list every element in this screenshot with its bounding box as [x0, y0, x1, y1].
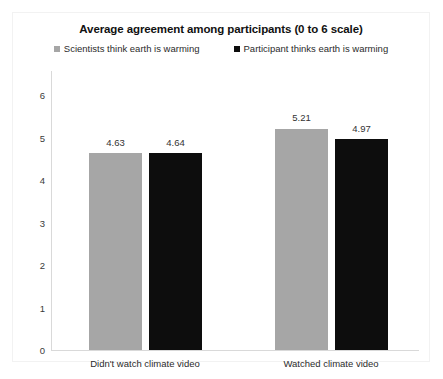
x-axis-line [51, 350, 419, 351]
chart-title: Average agreement among participants (0 … [13, 23, 429, 35]
y-tick-3: 3 [21, 217, 45, 228]
bar-value-group1-series0: 5.21 [272, 112, 332, 123]
bar-value-group0-series1: 4.64 [146, 137, 206, 148]
legend-swatch-black-icon [234, 46, 240, 52]
chart-container: Average agreement among participants (0 … [12, 12, 430, 362]
y-tick-2: 2 [21, 260, 45, 271]
legend-label-participant: Participant thinks earth is warming [244, 43, 389, 54]
y-tick-5: 5 [21, 132, 45, 143]
bar-value-group1-series1: 4.97 [332, 123, 392, 134]
legend-item-scientists[interactable]: Scientists think earth is warming [54, 43, 200, 54]
y-tick-4: 4 [21, 175, 45, 186]
y-axis-line [51, 71, 52, 351]
bar-group0-series1[interactable] [149, 153, 202, 350]
bar-group0-series0[interactable] [89, 153, 142, 350]
plot-area: 6 5 4 3 2 1 0 4.63 4.64 5.21 4.97 Didn't… [51, 71, 419, 351]
y-tick-6: 6 [21, 90, 45, 101]
bar-group1-series0[interactable] [275, 129, 328, 350]
bar-group1-series1[interactable] [335, 139, 388, 350]
y-tick-1: 1 [21, 302, 45, 313]
legend-label-scientists: Scientists think earth is warming [64, 43, 200, 54]
bar-value-group0-series0: 4.63 [86, 137, 146, 148]
x-category-label-1: Watched climate video [246, 358, 416, 369]
x-category-label-0: Didn't watch climate video [60, 358, 230, 369]
legend-swatch-gray-icon [54, 46, 60, 52]
y-tick-0: 0 [21, 345, 45, 356]
chart-legend: Scientists think earth is warming Partic… [13, 43, 429, 54]
legend-item-participant[interactable]: Participant thinks earth is warming [234, 43, 389, 54]
